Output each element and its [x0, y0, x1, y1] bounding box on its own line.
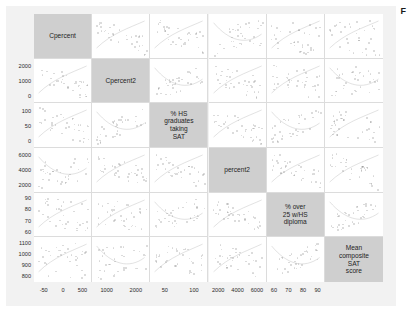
data-point: [117, 170, 119, 172]
data-point: [333, 131, 335, 133]
data-point: [261, 128, 263, 130]
data-point: [190, 72, 192, 74]
data-point: [356, 21, 358, 23]
splom-panel-r3-c2: [150, 148, 208, 193]
data-point: [77, 257, 79, 259]
data-point: [260, 25, 262, 27]
data-point: [336, 134, 338, 136]
data-point: [78, 169, 80, 171]
data-point: [49, 173, 51, 175]
data-point: [61, 205, 63, 207]
data-point: [315, 89, 317, 91]
data-point: [364, 30, 366, 32]
data-point: [124, 226, 126, 228]
data-point: [215, 66, 217, 68]
data-point: [103, 171, 105, 173]
data-point: [244, 218, 246, 220]
data-point: [135, 121, 137, 123]
trend-line: [150, 193, 207, 237]
data-point: [248, 255, 250, 257]
data-point: [60, 172, 62, 174]
data-point: [105, 224, 107, 226]
data-point: [297, 80, 299, 82]
data-point: [290, 264, 292, 266]
data-point: [76, 265, 78, 267]
data-point: [111, 209, 113, 211]
data-point: [180, 90, 182, 92]
data-point: [285, 165, 287, 167]
data-point: [226, 267, 228, 269]
data-point: [145, 180, 147, 182]
data-point: [222, 256, 224, 258]
data-point: [51, 128, 53, 130]
data-point: [253, 43, 255, 45]
data-point: [262, 22, 264, 24]
data-point: [301, 179, 303, 181]
data-point: [47, 198, 49, 200]
data-point: [50, 255, 52, 257]
data-point: [98, 249, 100, 251]
data-point: [57, 80, 59, 82]
data-point: [369, 20, 371, 22]
data-point: [83, 138, 85, 140]
data-point: [190, 34, 192, 36]
data-point: [358, 37, 360, 39]
y-tick-label: 2000: [19, 182, 31, 188]
data-point: [317, 259, 319, 261]
data-point: [50, 129, 52, 131]
data-point: [258, 20, 260, 22]
data-point: [370, 73, 372, 75]
data-point: [176, 250, 178, 252]
data-point: [174, 84, 176, 86]
data-point: [113, 24, 115, 26]
data-point: [114, 261, 116, 263]
data-point: [239, 254, 241, 256]
data-point: [118, 41, 120, 43]
splom-panel-r2-c3: [209, 103, 267, 148]
data-point: [73, 162, 75, 164]
data-point: [298, 30, 300, 32]
data-point: [237, 29, 239, 31]
data-point: [60, 254, 62, 256]
data-point: [170, 94, 172, 96]
data-point: [252, 75, 254, 77]
data-point: [335, 124, 337, 126]
data-point: [335, 95, 337, 97]
data-point: [219, 255, 221, 257]
data-point: [85, 230, 87, 232]
data-point: [283, 171, 285, 173]
data-point: [195, 33, 197, 35]
data-point: [106, 247, 108, 249]
data-point: [72, 139, 74, 141]
data-point: [82, 223, 84, 225]
data-point: [374, 141, 376, 143]
data-point: [51, 124, 53, 126]
x-tick-label: 2000: [130, 287, 142, 293]
data-point: [70, 201, 72, 203]
data-point: [223, 123, 225, 125]
y-tick-label: 6000: [19, 152, 31, 158]
data-point: [220, 126, 222, 128]
data-point: [248, 211, 250, 213]
data-point: [97, 143, 99, 145]
data-point: [343, 119, 345, 121]
data-point: [296, 85, 298, 87]
data-point: [110, 39, 112, 41]
data-point: [165, 168, 167, 170]
data-point: [256, 136, 258, 138]
splom-figure: F CpercentCpercent2% HS graduates taking…: [0, 0, 410, 314]
data-point: [233, 46, 235, 48]
data-point: [349, 50, 351, 52]
splom-diagonal-cell-2: % HS graduates taking SAT: [150, 103, 208, 148]
data-point: [297, 41, 299, 43]
data-point: [241, 135, 243, 137]
data-point: [343, 88, 345, 90]
data-point: [237, 256, 239, 258]
data-point: [156, 154, 158, 156]
data-point: [342, 170, 344, 172]
data-point: [172, 87, 174, 89]
data-point: [88, 162, 90, 164]
data-point: [315, 245, 317, 247]
data-point: [320, 112, 322, 114]
data-point: [46, 71, 48, 73]
